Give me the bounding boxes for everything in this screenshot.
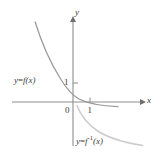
curve-label-f-arg: (x) — [26, 75, 36, 85]
function-inverse-graph-figure: x y 1 1 0 y=f(x) y=f-1(x) — [0, 0, 160, 164]
curve-label-f-inverse: y=f-1(x) — [76, 135, 103, 146]
y-axis-label: y — [75, 8, 79, 17]
origin-label: 0 — [65, 106, 70, 115]
curve-f — [35, 22, 118, 107]
x-axis-label: x — [147, 96, 151, 105]
curve-label-finv-arg: (x) — [93, 136, 103, 146]
y-tick-label-1: 1 — [64, 78, 69, 87]
x-axis-arrowhead — [140, 99, 146, 105]
x-tick-label-1: 1 — [88, 106, 93, 115]
curve-label-f: y=f(x) — [14, 76, 36, 85]
y-axis — [70, 16, 78, 146]
